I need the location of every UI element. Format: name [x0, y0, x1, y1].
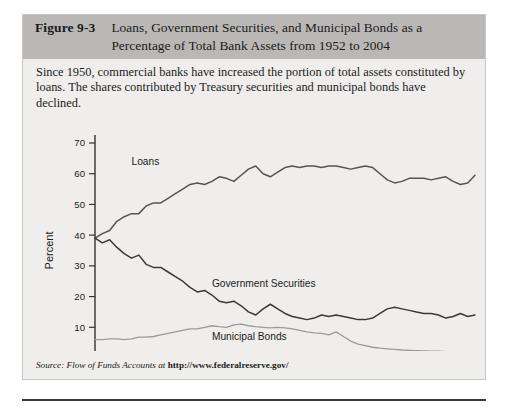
y-tick-label: 30	[74, 260, 85, 271]
series-label-government-securities: Government Securities	[212, 278, 316, 289]
y-axis-title: Percent	[43, 232, 55, 270]
line-chart: 0102030405060701952195619601964196819721…	[23, 119, 487, 351]
y-tick-label: 40	[74, 230, 85, 241]
figure-header-band: Figure 9-3 Loans, Government Securities,…	[23, 15, 485, 59]
source-lead-text: Source: Flow of Funds Accounts at	[36, 360, 168, 370]
y-tick-label: 60	[74, 168, 85, 179]
series-line-loans	[95, 166, 475, 238]
series-label-loans: Loans	[132, 156, 160, 167]
figure-number: Figure 9-3	[35, 19, 95, 36]
series-label-municipal-bonds: Municipal Bonds	[212, 331, 287, 342]
figure-screenshot: Figure 9-3 Loans, Government Securities,…	[0, 0, 509, 417]
y-tick-label: 50	[74, 199, 85, 210]
chart-plot-area: 0102030405060701952195619601964196819721…	[23, 119, 487, 351]
figure-title: Loans, Government Securities, and Munici…	[111, 19, 475, 55]
y-tick-label: 20	[74, 291, 85, 302]
y-tick-label: 70	[74, 137, 85, 148]
source-url-text: http://www.federalreserve.gov/	[168, 360, 289, 370]
page-divider-rule	[22, 399, 486, 401]
figure-container: Figure 9-3 Loans, Government Securities,…	[22, 14, 486, 380]
y-tick-label: 10	[74, 322, 85, 333]
source-note: Source: Flow of Funds Accounts at http:/…	[36, 360, 288, 370]
figure-caption: Since 1950, commercial banks have increa…	[23, 59, 485, 111]
